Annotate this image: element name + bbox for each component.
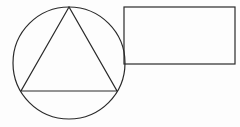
geometry-figure: [0, 0, 240, 127]
diagram-canvas: [0, 0, 240, 127]
rectangle-shape: [124, 7, 235, 64]
inscribed-triangle-shape: [21, 7, 117, 91]
circle-shape: [13, 7, 125, 119]
